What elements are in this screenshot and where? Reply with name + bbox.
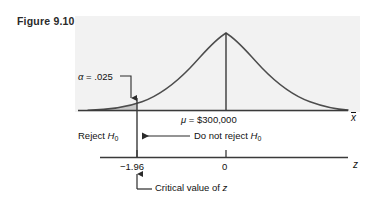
alpha-label: α = .025 xyxy=(78,72,113,82)
reject-region-label: Reject H0 xyxy=(78,131,118,141)
reject-hypothesis-subscript: 0 xyxy=(114,135,118,142)
mu-value: = $300,000 xyxy=(186,114,236,125)
not-reject-hypothesis-subscript: 0 xyxy=(257,135,261,142)
critical-note-z-symbol: z xyxy=(223,182,228,193)
xbar-symbol: x xyxy=(351,113,356,123)
critical-value-note: Critical value of z xyxy=(155,183,227,193)
distribution-diagram xyxy=(0,0,377,203)
alpha-value: = .025 xyxy=(83,71,112,82)
reject-text: Reject xyxy=(78,130,108,141)
do-not-reject-region-label: Do not reject H0 xyxy=(194,131,261,141)
mean-label: μ = $300,000 xyxy=(181,115,237,125)
z-axis-label: z xyxy=(353,160,358,170)
xbar-axis-label: x xyxy=(351,113,356,123)
z-tick-label-critical: −1.96 xyxy=(120,162,144,172)
critical-note-text: Critical value of xyxy=(155,182,223,193)
not-reject-text: Do not reject xyxy=(194,130,251,141)
alpha-leader-line xyxy=(120,76,131,98)
normal-curve xyxy=(88,33,348,110)
z-tick-label-zero: 0 xyxy=(222,162,227,172)
figure-container: Figure 9.10 xyxy=(0,0,377,203)
